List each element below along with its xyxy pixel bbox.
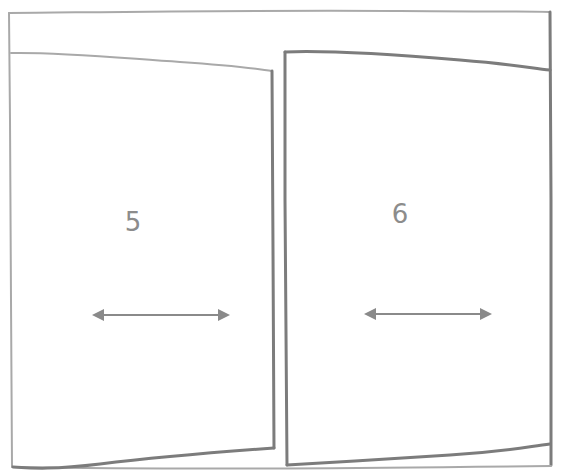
panel-label-left: 5 [125, 207, 142, 237]
panel-label-right: 6 [392, 199, 409, 229]
sketch-canvas [0, 0, 561, 475]
outer-frame [9, 11, 551, 469]
right-panel [285, 52, 550, 465]
double-arrow-icon [364, 308, 492, 320]
left-panel [11, 53, 274, 468]
double-arrow-icon [92, 309, 230, 321]
